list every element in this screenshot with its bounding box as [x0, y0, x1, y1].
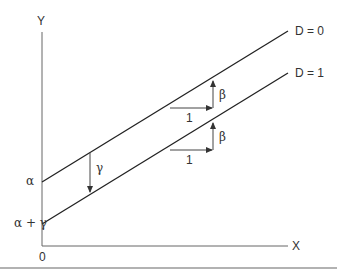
origin-label: 0: [39, 250, 46, 264]
run-label-upper: 1: [186, 111, 193, 125]
rise-label-lower: β: [219, 130, 226, 144]
line-d0: [42, 31, 288, 182]
gamma-label: γ: [96, 161, 103, 175]
run-label-lower: 1: [186, 153, 193, 167]
y-axis-label: Y: [37, 14, 45, 28]
line-d0-label: D = 0: [295, 24, 324, 38]
x-axis-label: X: [292, 239, 300, 253]
intercept-alpha-label: α: [26, 174, 34, 188]
line-d1: [42, 73, 288, 224]
rise-label-upper: β: [219, 88, 226, 102]
diagram-canvas: Y X 0 D = 0 D = 1 α α + γ γ 1 β 1 β: [0, 0, 337, 271]
line-d1-label: D = 1: [295, 66, 324, 80]
intercept-alpha-gamma-label: α + γ: [14, 216, 47, 230]
